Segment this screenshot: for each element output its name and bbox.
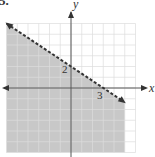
x-intercept-label: 3: [97, 90, 103, 101]
problem-number: 5.: [0, 0, 9, 7]
y-intercept-label: 2: [62, 64, 68, 75]
inequality-graph: [0, 0, 155, 157]
x-axis-label: x: [149, 82, 154, 94]
y-axis-label: y: [73, 0, 78, 10]
